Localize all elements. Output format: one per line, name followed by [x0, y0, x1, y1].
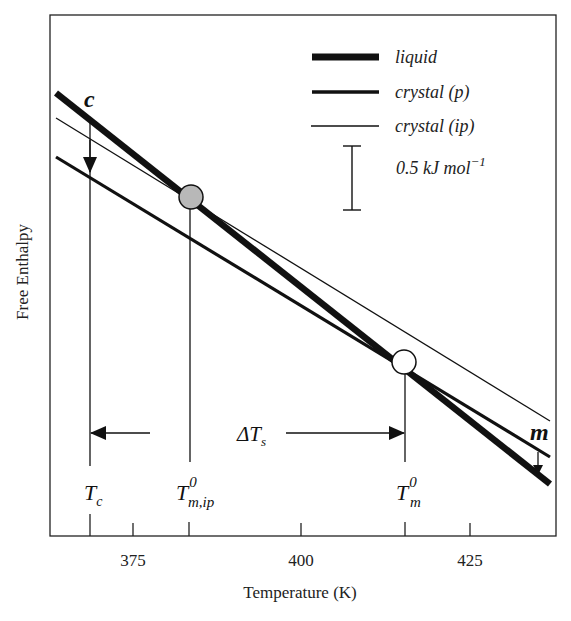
- tick-label-425: 425: [457, 551, 483, 570]
- tm-label: T0m: [396, 474, 421, 510]
- legend-label-liquid: liquid: [395, 47, 438, 67]
- tmip-label: T0m,ip: [176, 474, 215, 510]
- plot-frame: [50, 15, 556, 536]
- scale-bar: [343, 146, 361, 210]
- tm-marker: [392, 350, 416, 374]
- x-ticks: [90, 514, 470, 536]
- scale-bar-label: 0.5 kJ mol−1: [396, 154, 486, 178]
- tick-label-375: 375: [120, 551, 146, 570]
- crystal-p-line: [56, 157, 550, 457]
- legend: liquid crystal (p) crystal (ip): [311, 47, 474, 137]
- liquid-line: [56, 93, 550, 484]
- c-label: c: [84, 86, 95, 112]
- x-axis-title: Temperature (K): [243, 583, 357, 602]
- tick-label-400: 400: [288, 551, 314, 570]
- tmip-marker: [179, 185, 203, 209]
- delta-ts-label: ΔTs: [236, 422, 266, 449]
- free-enthalpy-chart: 375 400 425 Temperature (K) Free Enthalp…: [0, 0, 571, 621]
- legend-label-crystal-p: crystal (p): [395, 82, 469, 103]
- legend-label-crystal-ip: crystal (ip): [395, 116, 474, 137]
- y-axis-title: Free Enthalpy: [13, 224, 32, 320]
- guide-lines: [90, 120, 405, 466]
- m-label: m: [530, 419, 549, 445]
- tc-label: Tc: [84, 480, 103, 509]
